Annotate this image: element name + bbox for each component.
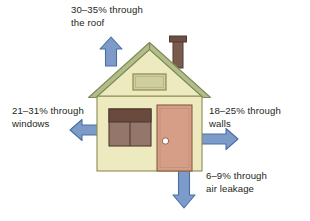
label-windows-heat-loss: 21–31% through windows <box>12 105 84 130</box>
label-roof-heat-loss: 30–35% through the roof <box>71 4 143 29</box>
doorknob-icon <box>162 138 168 144</box>
air-leakage-arrow <box>173 170 195 208</box>
walls-arrow <box>200 129 238 150</box>
label-walls-heat-loss: 18–25% through walls <box>209 105 281 130</box>
door <box>157 105 192 171</box>
roof-arrow <box>100 37 122 66</box>
window <box>109 109 151 146</box>
attic-vent <box>133 74 166 90</box>
heat-loss-diagram: 30–35% through the roof 21–31% through w… <box>0 0 310 221</box>
label-air-leakage-heat-loss: 6–9% through air leakage <box>206 170 267 195</box>
